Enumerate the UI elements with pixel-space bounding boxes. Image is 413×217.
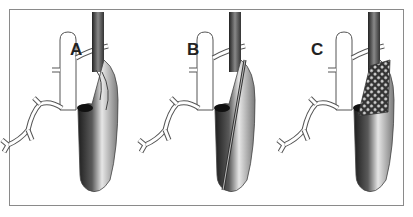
panel-label-a: A xyxy=(70,40,82,60)
stent xyxy=(358,60,390,116)
panel-label-b: B xyxy=(187,40,199,60)
illustration-canvas xyxy=(0,0,413,217)
panel-a xyxy=(2,12,118,192)
panel-b xyxy=(139,12,255,192)
panel-label-c: C xyxy=(311,40,323,60)
panel-c xyxy=(278,12,394,192)
